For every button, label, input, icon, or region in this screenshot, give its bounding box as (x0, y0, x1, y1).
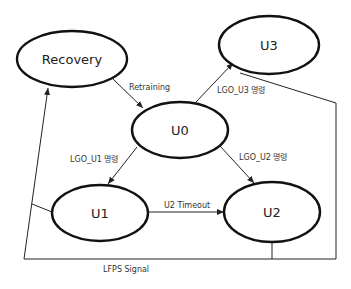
node-u0: U0 (132, 102, 228, 158)
edge-label-u2-timeout: U2 Timeout (164, 201, 210, 210)
edge-label-retraining: Retraining (129, 83, 170, 92)
edge-u0-u2 (220, 146, 254, 183)
node-label-u2: U2 (263, 205, 281, 220)
edge-lfps-to-recovery (24, 88, 48, 259)
state-diagram: Recovery U0 U1 U2 U3 Retraining LGO_U3 명… (0, 0, 351, 289)
node-u3: U3 (219, 16, 319, 74)
node-recovery: Recovery (17, 31, 127, 87)
node-label-recovery: Recovery (42, 52, 103, 67)
edge-u0-u1 (108, 147, 137, 184)
edge-label-lfps-signal: LFPS Signal (103, 265, 149, 274)
node-label-u1: U1 (91, 206, 109, 221)
edge-u0-u3 (196, 63, 233, 102)
node-u2: U2 (224, 182, 320, 242)
edge-u1-return (32, 204, 52, 212)
edge-label-lgo-u1: LGO_U1 명령 (70, 154, 118, 164)
node-label-u3: U3 (260, 38, 278, 53)
edge-label-lgo-u3: LGO_U3 명령 (217, 85, 265, 95)
node-u1: U1 (52, 185, 148, 241)
node-label-u0: U0 (171, 123, 189, 138)
edge-label-lgo-u2: LGO_U2 명령 (239, 152, 287, 162)
